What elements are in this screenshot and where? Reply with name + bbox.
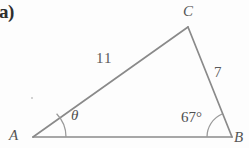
angle-label-67: 67° <box>181 110 202 125</box>
angle-label-theta: θ <box>71 108 78 123</box>
triangle-outline <box>33 27 232 137</box>
vertex-label-b: B <box>234 130 243 145</box>
side-length-ac: 11 <box>96 51 112 66</box>
side-length-bc: 7 <box>214 65 222 80</box>
side-AC <box>33 27 188 137</box>
triangle-svg <box>0 0 249 148</box>
triangle-figure: a) C A B 11 7 θ 67° <box>0 0 249 148</box>
part-label: a) <box>0 2 14 21</box>
angle-arc-67 <box>207 114 222 137</box>
vertex-label-c: C <box>183 4 193 19</box>
scan-speck <box>31 97 33 99</box>
vertex-label-a: A <box>9 128 18 143</box>
